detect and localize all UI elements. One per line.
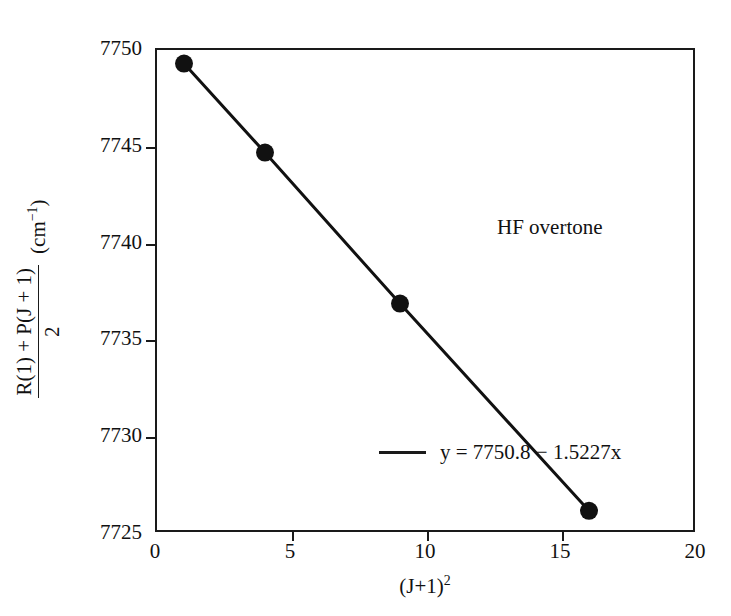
x-axis-tick-label: 10: [415, 541, 436, 562]
y-axis-title-denominator: 2: [39, 326, 64, 337]
y-axis-tick: [146, 147, 157, 149]
data-point-marker: [391, 295, 409, 313]
y-axis-title: R(1) + P(J + 1) 2 (cm−1): [7, 79, 69, 519]
y-axis-title-fraction: R(1) + P(J + 1) 2: [13, 265, 63, 399]
y-axis-units: (cm−1): [26, 200, 51, 254]
y-axis-tick-label: 7735: [100, 328, 142, 349]
y-axis-tick-label: 7730: [100, 425, 142, 446]
y-axis-tick-label: 7750: [100, 38, 142, 59]
plot-area: HF overtone y = 7750.8 − 1.5227x: [155, 48, 695, 532]
x-axis-tick-label: 5: [285, 541, 296, 562]
legend-line-swatch: [379, 451, 426, 454]
x-axis-tick-label: 20: [685, 541, 706, 562]
y-axis-tick-label: 7745: [100, 135, 142, 156]
x-axis-title: (J+1)2: [155, 576, 695, 597]
y-axis-tick: [146, 244, 157, 246]
x-axis-tick-labels: 05101520: [155, 541, 695, 567]
y-axis-tick: [146, 437, 157, 439]
chart-figure: 775077457740773577307725 R(1) + P(J + 1)…: [0, 0, 731, 616]
x-axis-tick-label: 0: [150, 541, 161, 562]
y-axis-units-text: (cm: [26, 221, 50, 254]
y-axis-units-exponent: −1: [25, 207, 40, 222]
x-axis-title-text: (J+1): [399, 574, 444, 598]
x-axis-tick-label: 15: [550, 541, 571, 562]
data-point-marker: [175, 55, 193, 73]
legend-label: y = 7750.8 − 1.5227x: [440, 442, 621, 463]
y-axis-tick-label: 7725: [100, 522, 142, 543]
x-axis-title-exponent: 2: [444, 573, 451, 588]
plot-annotation: HF overtone: [497, 217, 603, 238]
legend: y = 7750.8 − 1.5227x: [379, 442, 621, 463]
data-point-marker: [256, 144, 274, 162]
y-axis-title-numerator: R(1) + P(J + 1): [13, 265, 39, 399]
y-axis-units-close: ): [26, 200, 50, 207]
y-axis-tick: [146, 340, 157, 342]
data-point-marker: [580, 502, 598, 520]
y-axis-tick-label: 7740: [100, 232, 142, 253]
